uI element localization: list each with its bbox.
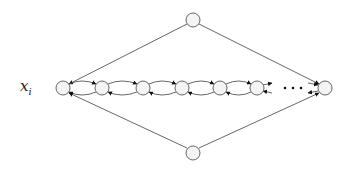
node-chain-4 [175,81,189,95]
graph [0,0,348,176]
node-bottom [186,146,200,160]
edge-first-bottom [69,93,187,148]
edge-top-to-first [69,24,187,84]
node-chain-5 [213,81,227,95]
diagram-canvas: xi [0,0,348,176]
node-chain-6 [250,81,264,95]
node-chain-3 [136,81,150,95]
nodes [56,13,332,160]
node-chain-2 [95,81,109,95]
node-top [186,13,200,27]
ellipsis-dots [284,87,303,90]
edge-top-to-last [199,24,319,84]
edge-last-bottom [199,93,319,148]
node-chain-last [318,81,332,95]
node-chain-1 [56,81,70,95]
